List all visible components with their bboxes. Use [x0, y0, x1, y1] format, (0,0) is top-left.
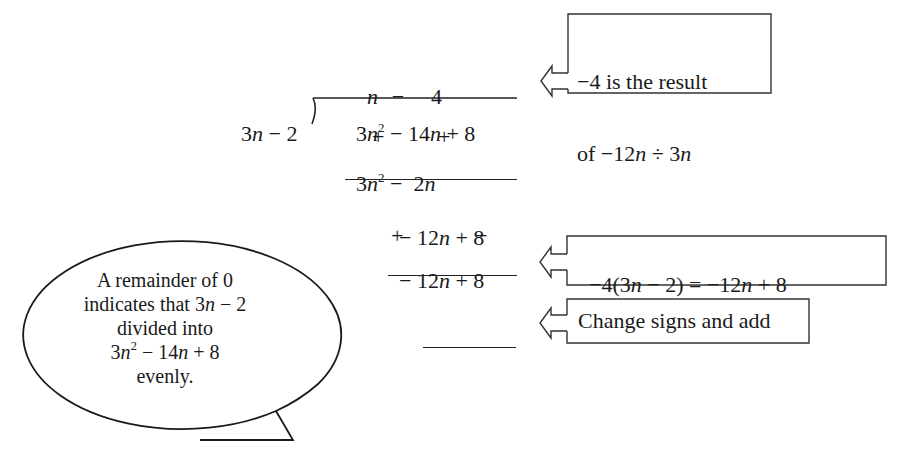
cq-l2-var2: n [680, 141, 691, 166]
callout-quotient-line2: of −12n ÷ 3n [577, 142, 707, 166]
sign-change-1a: + [372, 126, 384, 148]
subtraction-line-2 [388, 275, 517, 276]
speech-bubble-text: A remainder of 0 indicates that 3n − 2 d… [48, 268, 282, 388]
bl4-coef: 3 [110, 341, 120, 363]
sub1-mid: − 2 [385, 171, 425, 196]
bl2-var: n [205, 293, 215, 315]
sign-change-2a: + [391, 225, 403, 247]
bubble-line-2: indicates that 3n − 2 [48, 292, 282, 316]
bubble-line-5: evenly. [48, 364, 282, 388]
dividend-mid: − 14 [385, 121, 430, 146]
rem1-var: n [439, 225, 450, 250]
bubble-line-1: A remainder of 0 [48, 268, 282, 292]
cm-a: −4(3 [589, 272, 631, 297]
divisor-coef: 3 [241, 121, 252, 146]
callout-quotient-text: −4 is the result of −12n ÷ 3n [577, 22, 707, 190]
callout-signs-text: Change signs and add [578, 309, 770, 333]
subtrahend-1: 3n2 − 2n [345, 151, 435, 195]
cq-l2-var: n [635, 141, 646, 166]
bl4-var: n [120, 341, 130, 363]
subtraction-line-1 [345, 179, 517, 180]
cm-b: − 2) = −12 [642, 272, 742, 297]
divisor-var: n [252, 121, 263, 146]
dividend-coef: 3 [356, 121, 367, 146]
left-arrow-icon [540, 247, 567, 277]
cq-l2-pre: of −12 [577, 141, 635, 166]
sign-change-1b: + [438, 126, 450, 148]
sub1-var: n [367, 171, 378, 196]
divisor-rest: − 2 [263, 121, 297, 146]
bl2-post: − 2 [215, 293, 246, 315]
left-arrow-icon [541, 66, 568, 96]
bubble-line-4: 3n2 − 14n + 8 [48, 340, 282, 364]
cm-v1: n [631, 272, 642, 297]
sub2-lead: − 12 [399, 268, 439, 293]
bl4-tail: + 8 [188, 341, 219, 363]
divisor: 3n − 2 [230, 101, 297, 145]
bubble-line-3: divided into [48, 316, 282, 340]
cm-v2: n [741, 272, 752, 297]
sub1-var2: n [424, 171, 435, 196]
cq-l2-mid: ÷ 3 [646, 141, 680, 166]
sign-change-2b: − [475, 225, 487, 247]
callout-multiply-text: −4(3n − 2) = −12n + 8 [578, 249, 787, 297]
dividend: 3n2 − 14n + 8 [345, 101, 475, 145]
sub2-var: n [439, 268, 450, 293]
bl2-pre: indicates that 3 [84, 293, 205, 315]
rem1-lead: − 12 [399, 225, 439, 250]
cm-c: + 8 [752, 272, 786, 297]
bl4-mid: − 14 [137, 341, 178, 363]
sub1-coef: 3 [356, 171, 367, 196]
bl4-var2: n [178, 341, 188, 363]
final-remainder-line [423, 347, 516, 348]
subtrahend-2: − 12n + 8 [388, 248, 484, 292]
sub2-tail: + 8 [450, 268, 484, 293]
callout-quotient-line1: −4 is the result [577, 70, 707, 94]
left-arrow-icon [540, 308, 567, 338]
